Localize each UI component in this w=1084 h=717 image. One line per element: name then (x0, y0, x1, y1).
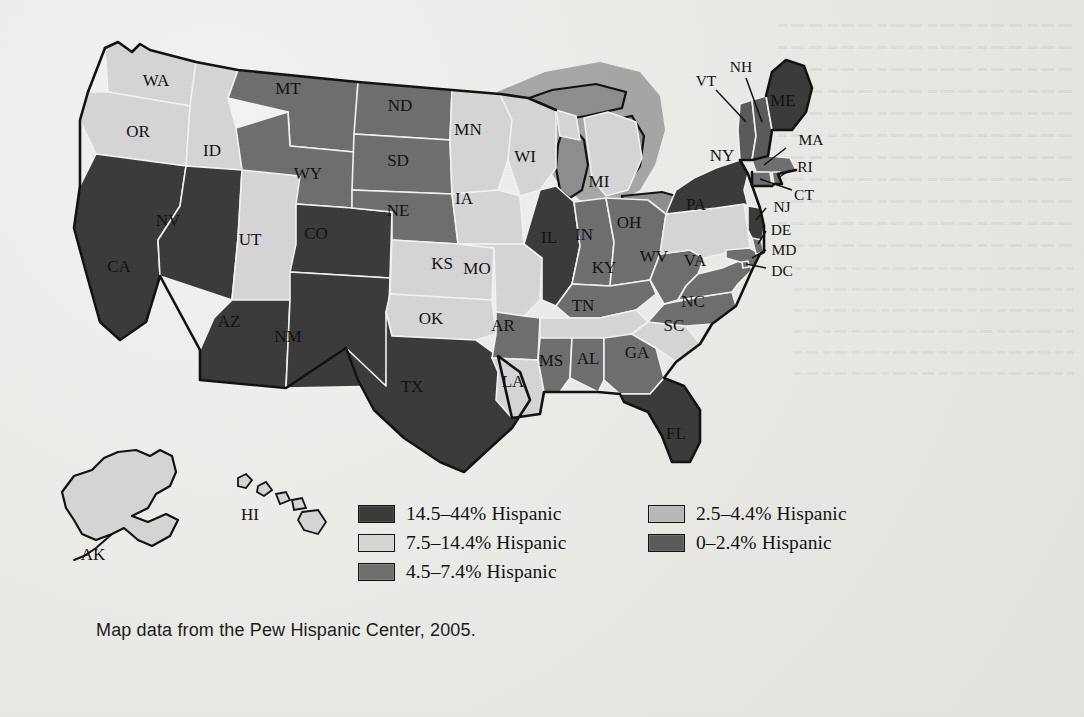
legend-swatch (648, 505, 685, 523)
state-label-KS: KS (431, 254, 453, 273)
state-label-DC: DC (771, 262, 793, 279)
state-label-IL: IL (541, 228, 557, 247)
state-label-MS: MS (539, 351, 564, 370)
state-label-MA: MA (799, 131, 825, 148)
state-label-IN: IN (575, 225, 593, 244)
state-label-UT: UT (239, 230, 262, 249)
state-label-NY: NY (710, 146, 735, 165)
legend-swatch (358, 505, 395, 523)
state-label-NJ: NJ (773, 198, 790, 215)
states-south (538, 292, 736, 462)
legend-item: 0–2.4% Hispanic (648, 529, 938, 557)
state-label-AL: AL (577, 349, 600, 368)
legend-item: 7.5–14.4% Hispanic (358, 529, 648, 557)
state-label-OH: OH (617, 213, 642, 232)
state-label-NC: NC (681, 292, 705, 311)
state-label-CT: CT (794, 186, 814, 203)
state-label-RI: RI (797, 158, 813, 175)
state-MN (450, 90, 512, 194)
state-label-PA: PA (686, 195, 707, 214)
state-label-IA: IA (455, 189, 474, 208)
state-AK (62, 450, 178, 546)
state-label-MD: MD (772, 241, 797, 258)
legend-label: 4.5–7.4% Hispanic (406, 561, 557, 583)
legend-item: 14.5–44% Hispanic (358, 500, 648, 528)
state-label-NH: NH (730, 58, 752, 75)
state-label-MI: MI (589, 172, 610, 191)
legend-label: 0–2.4% Hispanic (696, 532, 832, 554)
state-label-NM: NM (274, 327, 301, 346)
state-label-WY: WY (294, 164, 322, 183)
state-label-ID: ID (203, 141, 221, 160)
state-label-WV: WV (640, 247, 669, 266)
state-NY (666, 160, 748, 214)
state-label-VA: VA (684, 251, 707, 270)
state-label-ND: ND (388, 96, 413, 115)
state-label-SC: SC (664, 316, 685, 335)
legend-item: 4.5–7.4% Hispanic (358, 558, 648, 586)
legend-item: 2.5–4.4% Hispanic (648, 500, 938, 528)
state-label-WI: WI (514, 147, 536, 166)
state-label-TX: TX (401, 377, 424, 396)
state-label-NV: NV (156, 211, 181, 230)
state-label-OR: OR (126, 122, 150, 141)
legend-label: 7.5–14.4% Hispanic (406, 532, 567, 554)
state-label-MT: MT (275, 79, 301, 98)
map-source-caption: Map data from the Pew Hispanic Center, 2… (96, 620, 476, 641)
state-label-DE: DE (771, 221, 792, 238)
state-label-MO: MO (463, 259, 490, 278)
state-label-AZ: AZ (218, 312, 241, 331)
legend-label: 14.5–44% Hispanic (406, 503, 562, 525)
us-choropleth-map: WA OR ID MT WY ND SD NE MN WI MI IA KS M… (0, 0, 1084, 717)
legend-swatch (358, 563, 395, 581)
state-label-CA: CA (107, 257, 131, 276)
state-label-CO: CO (304, 224, 328, 243)
state-label-SD: SD (387, 151, 409, 170)
legend-label: 2.5–4.4% Hispanic (696, 503, 847, 525)
legend-swatch (648, 534, 685, 552)
state-label-FL: FL (666, 424, 686, 443)
states-west (74, 42, 392, 388)
state-label-AR: AR (491, 316, 515, 335)
state-label-MN: MN (454, 120, 481, 139)
states-plains-midwest (346, 82, 666, 472)
state-label-GA: GA (625, 343, 650, 362)
state-label-VT: VT (696, 72, 717, 89)
state-label-WA: WA (143, 71, 170, 90)
inset-alaska-hawaii (62, 450, 326, 560)
state-label-ME: ME (770, 91, 796, 110)
state-label-OK: OK (419, 309, 444, 328)
legend-swatch (358, 534, 395, 552)
state-label-LA: LA (502, 372, 525, 391)
map-legend: 14.5–44% Hispanic 2.5–4.4% Hispanic 7.5–… (358, 500, 938, 586)
state-label-KY: KY (592, 258, 617, 277)
state-label-TN: TN (572, 296, 595, 315)
state-label-HI: HI (241, 505, 259, 524)
state-label-NE: NE (387, 201, 410, 220)
state-label-AK: AK (81, 545, 106, 564)
